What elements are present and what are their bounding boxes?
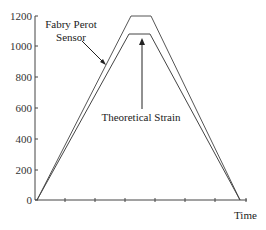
arrow-icon-fabry-perot [82,41,106,65]
strain-chart: 0 200 400 600 800 1000 1200 Time Fabry P… [0,0,266,230]
arrow-icon-theoretical-strain [139,38,145,109]
x-axis-label: Time [234,209,257,221]
annotation-fabry-perot-line2: Sensor [56,31,86,43]
y-tick-800: 800 [16,71,33,83]
series-fabry-perot-sensor [37,16,240,200]
y-tick-400: 400 [16,133,33,145]
y-tick-1000: 1000 [10,40,33,52]
y-tick-600: 600 [16,102,33,114]
y-tick-200: 200 [16,164,33,176]
y-tick-1200: 1200 [10,10,33,22]
annotation-fabry-perot-line1: Fabry Perot [45,18,97,30]
annotation-theoretical-strain: Theoretical Strain [101,111,181,123]
y-tick-labels: 0 200 400 600 800 1000 1200 [10,10,33,206]
y-tick-0: 0 [27,194,33,206]
